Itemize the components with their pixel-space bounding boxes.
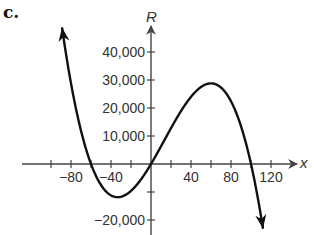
y-tick-label: 40,000 xyxy=(102,44,145,60)
x-axis-label: x xyxy=(299,154,308,171)
x-tick-label: 40 xyxy=(183,169,199,185)
y-tick-label: 30,000 xyxy=(102,72,145,88)
y-tick-label: 20,000 xyxy=(102,100,145,116)
y-tick-label: −20,000 xyxy=(94,212,145,228)
chart: −80−404080120 40,00030,00020,00010,000−2… xyxy=(0,0,314,235)
x-tick-label: −80 xyxy=(59,169,83,185)
x-tick-label: 120 xyxy=(259,169,283,185)
y-axis-label: R xyxy=(146,8,157,25)
y-tick-label: 10,000 xyxy=(102,128,145,144)
x-tick-label: −40 xyxy=(99,169,123,185)
x-tick-label: 80 xyxy=(223,169,239,185)
curve xyxy=(59,27,267,228)
y-axis: 40,00030,00020,00010,000−20,000 xyxy=(94,26,155,235)
